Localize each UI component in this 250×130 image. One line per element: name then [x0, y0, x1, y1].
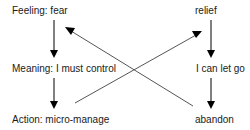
arrow-action-to-relief: [75, 31, 202, 103]
diagram-connectors: [0, 0, 250, 130]
arrow-letgo-to-abandon: [207, 78, 215, 109]
arrow-abandon-to-feeling: [65, 27, 193, 106]
arrow-feeling-to-meaning: [50, 20, 58, 58]
arrow-meaning-to-action: [50, 78, 58, 109]
arrow-relief-to-letgo: [207, 20, 215, 58]
